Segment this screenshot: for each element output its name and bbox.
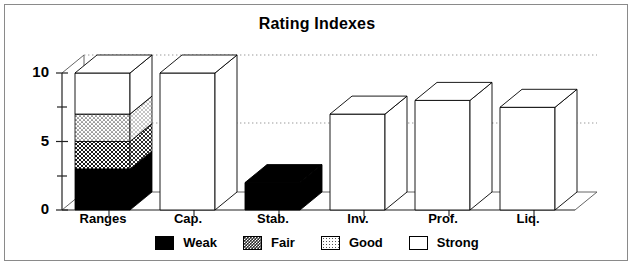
y-tick-label-5: 5	[23, 132, 49, 149]
legend-swatch-weak-icon	[155, 236, 174, 250]
x-label-liq: Liq.	[488, 211, 568, 226]
y-tick-label-10: 10	[23, 63, 49, 80]
y-axis	[56, 73, 68, 210]
x-label-stab: Stab.	[233, 211, 313, 226]
bar-stab[interactable]	[245, 165, 322, 210]
legend-label-weak: Weak	[183, 235, 217, 250]
y-tick-label-0: 0	[23, 200, 49, 217]
x-label-cap: Cap.	[148, 211, 228, 226]
chart-frame: Rating Indexes	[4, 4, 628, 261]
legend-swatch-strong-icon	[409, 236, 428, 250]
legend-label-fair: Fair	[271, 235, 295, 250]
bar-segment-ranges-strong[interactable]	[75, 55, 152, 114]
x-label-inv: Inv.	[318, 211, 398, 226]
bar-ranges[interactable]	[75, 55, 152, 210]
legend-item-fair[interactable]: Fair	[243, 235, 295, 250]
x-label-ranges: Ranges	[63, 211, 143, 226]
bar-cap[interactable]	[160, 55, 237, 210]
legend-swatch-fair-icon	[243, 236, 262, 250]
legend-label-good: Good	[349, 235, 383, 250]
plot-area: 10 5 0 Ranges Cap. Stab. Inv. Prof. Liq.	[5, 5, 629, 262]
bar-inv[interactable]	[330, 96, 407, 210]
x-label-prof: Prof.	[403, 211, 483, 226]
legend-swatch-good-icon	[321, 236, 340, 250]
legend-item-weak[interactable]: Weak	[155, 235, 217, 250]
legend-item-strong[interactable]: Strong	[409, 235, 479, 250]
chart-legend: Weak Fair Good Strong	[5, 235, 629, 250]
legend-label-strong: Strong	[437, 235, 479, 250]
bar-prof[interactable]	[415, 82, 492, 210]
bar-liq[interactable]	[500, 89, 577, 210]
legend-item-good[interactable]: Good	[321, 235, 383, 250]
